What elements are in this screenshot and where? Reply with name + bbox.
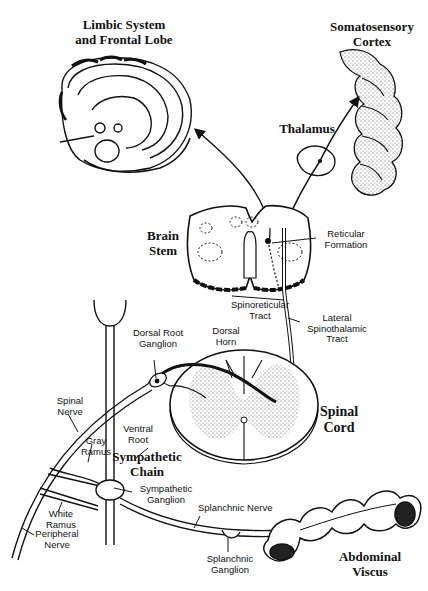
label-splanchnic-nerve: Splanchnic Nerve <box>198 503 268 514</box>
label-spinal-cord: Spinal Cord <box>314 404 364 435</box>
label-limbic-system: Limbic System and Frontal Lobe <box>64 18 184 47</box>
label-lateral-spinothalamic-tract: Lateral Spinothalamic Tract <box>298 313 376 345</box>
label-gray-ramus: Gray Ramus <box>76 436 116 457</box>
label-line: Ganglion <box>204 565 256 576</box>
label-line: Cord <box>314 420 364 436</box>
thalamus-illustration <box>297 146 335 176</box>
label-thalamus: Thalamus <box>272 122 342 137</box>
label-somatosensory-cortex: Somatosensory Cortex <box>322 20 422 49</box>
label-line: Somatosensory <box>322 20 422 35</box>
label-line: Spinal <box>314 404 364 420</box>
label-line: Tract <box>298 334 376 345</box>
label-line: and Frontal Lobe <box>64 33 184 48</box>
label-line: Abdominal <box>332 550 408 565</box>
somatosensory-cortex-illustration <box>340 50 402 195</box>
label-sympathetic-chain: Sympathetic Chain <box>112 450 182 479</box>
label-abdominal-viscus: Abdominal Viscus <box>332 550 408 579</box>
label-line: Cortex <box>322 35 422 50</box>
label-splanchnic-ganglion: Splanchnic Ganglion <box>204 554 256 575</box>
brain-stem-illustration <box>187 206 310 290</box>
label-line: Sympathetic <box>112 450 182 465</box>
label-dorsal-horn: Dorsal Horn <box>206 326 246 347</box>
limbic-brain-illustration <box>60 57 191 172</box>
label-line: Brain <box>140 229 186 244</box>
label-line: Root <box>116 435 160 446</box>
label-line: Nerve <box>30 540 84 551</box>
label-dorsal-root-ganglion: Dorsal Root Ganglion <box>128 328 188 349</box>
label-line: Horn <box>206 337 246 348</box>
label-peripheral-nerve: Peripheral Nerve <box>30 529 84 550</box>
label-spinoreticular-tract: Spinoreticular Tract <box>224 300 296 321</box>
label-reticular-formation: Reticular Formation <box>314 229 378 250</box>
label-line: Viscus <box>332 565 408 580</box>
label-brain-stem: Brain Stem <box>140 229 186 258</box>
label-line: Ganglion <box>136 495 196 506</box>
label-line: Chain <box>112 465 182 480</box>
spinal-cord-illustration <box>170 350 318 464</box>
label-line: Stem <box>140 244 186 259</box>
label-line: Formation <box>314 240 378 251</box>
label-line: Limbic System <box>64 18 184 33</box>
label-ventral-root: Ventral Root <box>116 424 160 445</box>
label-line: Tract <box>224 311 296 322</box>
label-line: Nerve <box>50 407 90 418</box>
label-spinal-nerve: Spinal Nerve <box>50 396 90 417</box>
label-line: Ramus <box>76 447 116 458</box>
sympathetic-ganglion-shape <box>96 480 124 500</box>
label-sympathetic-ganglion: Sympathetic Ganglion <box>136 484 196 505</box>
label-line: Ganglion <box>128 339 188 350</box>
